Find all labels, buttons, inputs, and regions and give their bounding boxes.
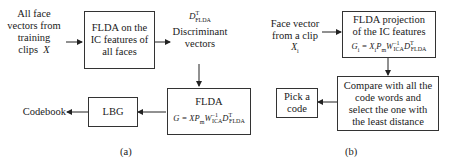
box-title: FLDA [195,96,222,108]
box-line: FLDA on the [92,22,147,34]
box-line: select the one with [349,104,427,116]
label-line: clips X [2,44,66,56]
pick-code-box: Pick a code [276,88,318,118]
box-line: FLDA projection [353,14,425,26]
caption-a: (a) [120,146,132,157]
box-line: Compare with all the [344,80,432,92]
flda-projection-box: FLDA projection of the IC features Gi = … [342,11,436,58]
box-line: of the IC features [352,26,425,38]
training-input-label: All face vectors from training clips X [2,8,66,56]
flda-on-ic-box: FLDA on the IC features of all faces [84,11,155,69]
flda-equation: G = XPmW−1ICADTFLDA [173,110,245,128]
compare-box: Compare with all the code words and sele… [337,76,439,131]
box-line: code words and [355,92,421,104]
clip-input-label: Face vector from a clip Xi [268,18,322,57]
caption-b: (b) [345,146,357,157]
box-line: Pick a [284,91,310,103]
box-line: IC features of [91,34,149,46]
label-line: vectors [170,38,230,50]
label-line: from a clip [268,30,322,42]
d-flda-symbol: DTFLDA [170,8,230,26]
variable-xi: Xi [268,42,322,57]
label-line: All face [2,8,66,20]
box-label: LBG [103,106,124,118]
flda-box: FLDA G = XPmW−1ICADTFLDA [167,88,251,135]
label-line: Discriminant [170,26,230,38]
label-line: Face vector [268,18,322,30]
label-line: training [2,32,66,44]
codebook-label: Codebook [20,106,66,118]
variable-x: X [43,44,49,55]
box-line: code [287,103,307,115]
projection-equation: Gi = XiPmW−1ICADTFLDA [352,38,427,56]
box-line: the least distance [352,116,424,128]
discriminant-vectors-label: DTFLDA Discriminant vectors [170,8,230,50]
lbg-box: LBG [88,97,138,127]
box-line: all faces [102,46,137,58]
label-line: vectors from [2,20,66,32]
